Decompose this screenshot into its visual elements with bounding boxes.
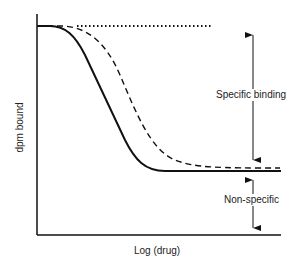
chart-canvas (0, 0, 302, 268)
non-specific-label: Non-specific (224, 194, 279, 206)
x-axis-label: Log (drug) (134, 245, 180, 257)
y-axis-label: dpm bound (14, 103, 25, 153)
specific-binding-label: Specific binding (216, 89, 286, 101)
